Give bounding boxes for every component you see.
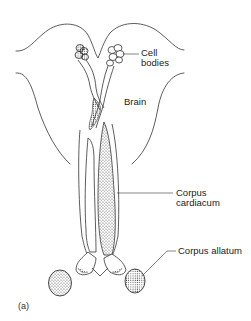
corpus-allatum-leader xyxy=(142,251,176,276)
right-cell-bodies xyxy=(107,45,125,67)
label-corpus-cardiacum: Corpus cardiacum xyxy=(176,188,220,208)
label-corpus-allatum: Corpus allatum xyxy=(178,246,242,256)
neuroendocrine-diagram xyxy=(0,0,251,321)
panel-label: (a) xyxy=(18,301,29,311)
left-cell-bodies xyxy=(75,45,89,61)
left-corpus-allatum xyxy=(49,270,72,296)
label-brain: Brain xyxy=(124,97,146,107)
label-cell-bodies: Cell bodies xyxy=(141,48,169,68)
brain-outline-lower-right xyxy=(132,73,184,164)
brain-outline-lower-left xyxy=(16,73,70,164)
corpus-cardiacum xyxy=(79,122,119,256)
right-corpus-allatum xyxy=(125,269,145,293)
